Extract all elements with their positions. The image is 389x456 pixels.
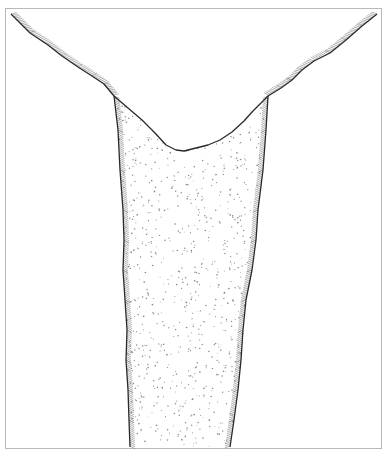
outlines xyxy=(11,14,377,447)
trench-illustration xyxy=(0,0,389,456)
hatching xyxy=(11,12,377,449)
